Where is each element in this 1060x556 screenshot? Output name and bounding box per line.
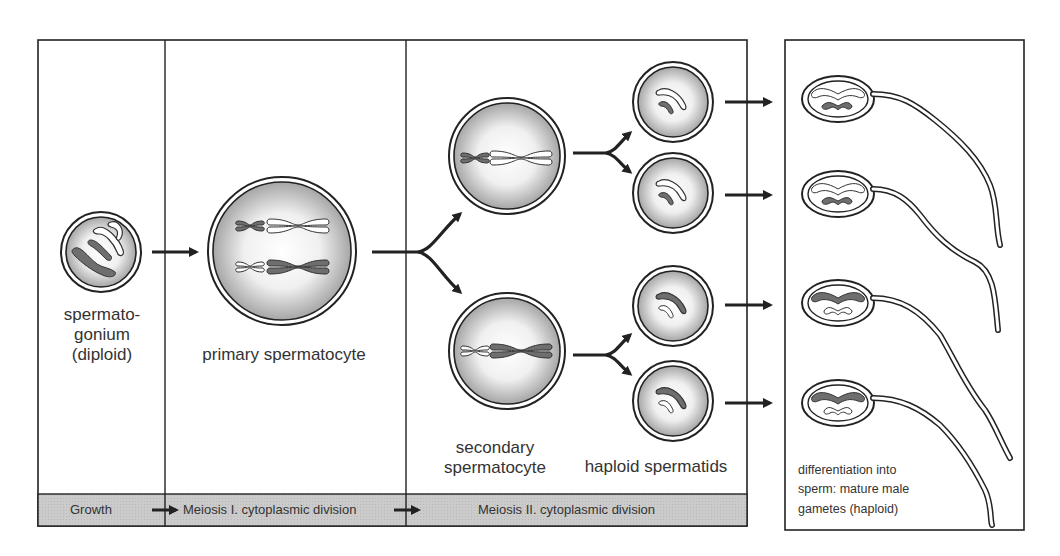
haploid-spermatids-label: haploid spermatids [570, 457, 742, 477]
secondary-spermatocyte-label: secondary spermatocyte [430, 438, 560, 478]
spermatid-1 [633, 62, 713, 142]
sperm-3 [802, 280, 1010, 458]
spermatogonium-label: spermato- gonium (diploid) [48, 305, 156, 365]
phase-growth-label: Growth [70, 502, 112, 517]
fork-arrow-meiosis1 [372, 214, 460, 292]
spermatid-2 [633, 153, 713, 233]
spermatid-3 [633, 266, 713, 346]
fork-arrow-meiosis2-bottom [573, 335, 630, 374]
fork-arrow-meiosis2-top [573, 133, 630, 172]
phase-meiosis2-label: Meiosis II. cytoplasmic division [478, 502, 655, 517]
secondary-spermatocyte-bottom [449, 293, 565, 409]
sperm-differentiation-label: differentiation into sperm: mature male … [798, 461, 968, 519]
phase-meiosis1-label: Meiosis I. cytoplasmic division [183, 502, 356, 517]
primary-spermatocyte-cell [208, 177, 356, 325]
primary-spermatocyte-label: primary spermatocyte [180, 345, 388, 365]
sperm-1 [802, 76, 1000, 245]
spermatogonium-cell [61, 212, 141, 292]
secondary-spermatocyte-top [449, 98, 565, 214]
spermatid-4 [633, 361, 713, 441]
